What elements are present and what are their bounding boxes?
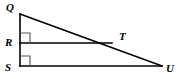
vertex-label-U: U bbox=[166, 63, 174, 74]
vertex-label-S: S bbox=[5, 62, 11, 73]
segment-QU bbox=[20, 14, 162, 66]
vertex-label-Q: Q bbox=[6, 2, 14, 13]
right-angle-mark-S bbox=[20, 56, 30, 66]
right-angle-mark-R bbox=[20, 33, 30, 43]
vertex-label-T: T bbox=[119, 31, 126, 42]
figure-canvas bbox=[0, 0, 178, 79]
geometry-figure: Q R S T U bbox=[0, 0, 178, 79]
vertex-label-R: R bbox=[5, 37, 12, 48]
